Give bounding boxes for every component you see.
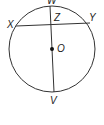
label-o: O [57,43,65,54]
label-w: W [47,0,58,6]
chord-xy [16,23,90,26]
label-v: V [50,95,58,106]
circle-diagram: W X Y Z O V [0,0,104,125]
label-z: Z [53,12,61,23]
center-point-o [50,47,54,51]
label-y: Y [89,12,97,23]
label-x: X [6,19,14,30]
